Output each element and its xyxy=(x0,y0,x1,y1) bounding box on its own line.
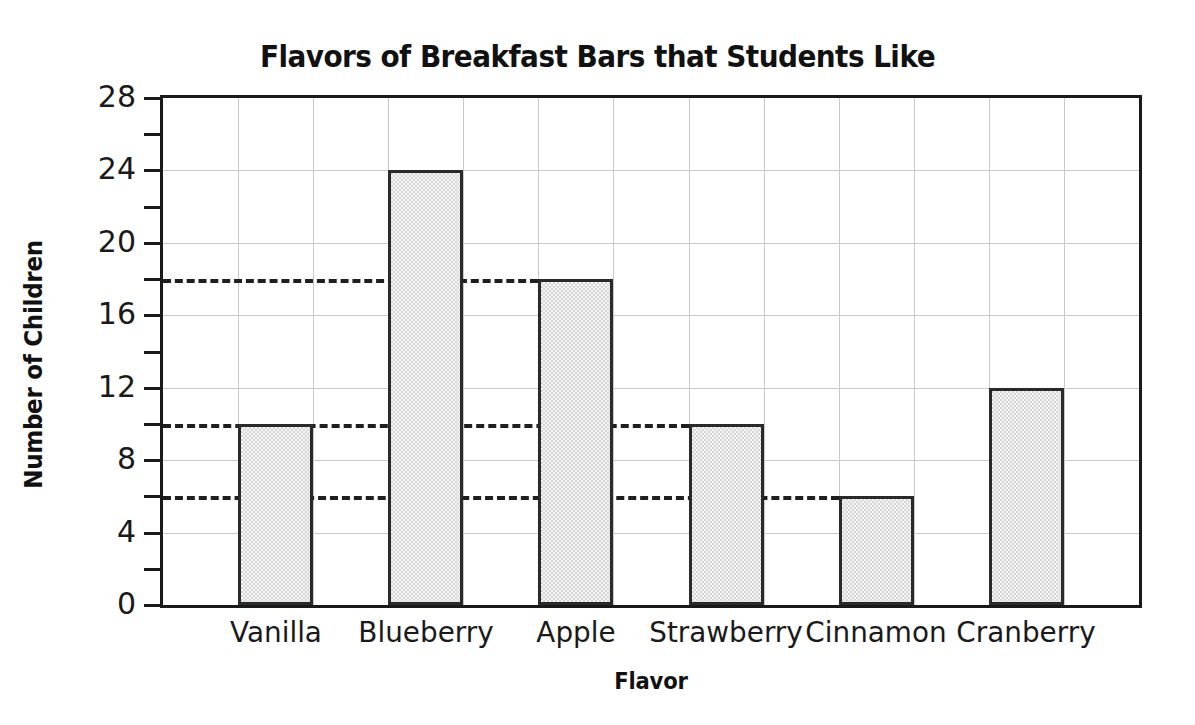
x-axis-title: Flavor xyxy=(199,668,1102,694)
y-tick-minor-6 xyxy=(144,495,161,498)
y-tick-major-16 xyxy=(144,314,161,317)
bar-vanilla xyxy=(238,424,313,605)
gridline-horizontal xyxy=(163,315,1139,316)
bar-blueberry xyxy=(388,170,463,605)
y-tick-major-12 xyxy=(144,387,161,390)
y-tick-minor-18 xyxy=(144,278,161,281)
y-tick-minor-10 xyxy=(144,423,161,426)
y-tick-major-0 xyxy=(144,604,161,607)
bar-cinnamon xyxy=(839,496,914,605)
bar-apple xyxy=(538,279,613,605)
y-tick-minor-2 xyxy=(144,568,161,571)
reference-line-18 xyxy=(163,279,538,283)
gridline-vertical xyxy=(313,98,314,605)
y-tick-major-8 xyxy=(144,459,161,462)
gridline-vertical xyxy=(463,98,464,605)
y-tick-label-24: 24 xyxy=(66,154,136,184)
y-tick-label-8: 8 xyxy=(66,444,136,474)
y-tick-major-20 xyxy=(144,242,161,245)
y-tick-label-20: 20 xyxy=(66,227,136,257)
y-tick-minor-22 xyxy=(144,206,161,209)
y-tick-minor-14 xyxy=(144,351,161,354)
y-tick-label-0: 0 xyxy=(66,589,136,619)
y-tick-label-16: 16 xyxy=(66,299,136,329)
gridline-vertical xyxy=(1064,98,1065,605)
bar-cranberry xyxy=(989,388,1064,605)
y-tick-label-28: 28 xyxy=(66,82,136,112)
gridline-vertical xyxy=(764,98,765,605)
bar-strawberry xyxy=(689,424,764,605)
y-tick-major-4 xyxy=(144,532,161,535)
y-tick-minor-26 xyxy=(144,133,161,136)
gridline-horizontal xyxy=(163,243,1139,244)
gridline-vertical xyxy=(914,98,915,605)
gridline-horizontal xyxy=(163,170,1139,171)
plot-inner xyxy=(163,98,1139,605)
x-tick-label-cranberry: Cranberry xyxy=(921,618,1132,647)
y-axis-title: Number of Children xyxy=(19,208,48,521)
bar-chart: Flavors of Breakfast Bars that Students … xyxy=(0,0,1195,725)
gridline-vertical xyxy=(613,98,614,605)
plot-area xyxy=(160,95,1142,608)
y-tick-label-4: 4 xyxy=(66,517,136,547)
chart-title: Flavors of Breakfast Bars that Students … xyxy=(60,38,1136,74)
y-tick-major-24 xyxy=(144,169,161,172)
y-tick-label-12: 12 xyxy=(66,372,136,402)
y-tick-major-28 xyxy=(144,97,161,100)
